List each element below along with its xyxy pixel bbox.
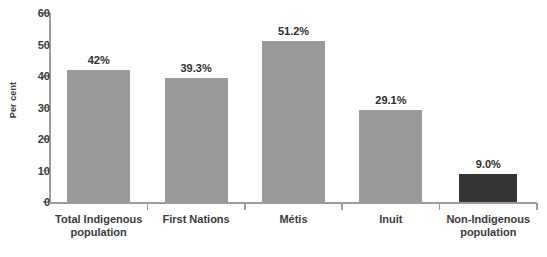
category-label-line: Total Indigenous <box>50 213 147 226</box>
bar-chart: Per cent 0102030405060 42%39.3%51.2%29.1… <box>0 0 547 257</box>
x-axis-tick-mark <box>341 203 343 210</box>
y-axis-tick-label: 60 <box>24 7 50 19</box>
y-axis-title: Per cent <box>8 70 18 130</box>
category-label-line: Métis <box>245 213 342 226</box>
bar[interactable] <box>165 78 228 202</box>
x-axis-category-label: First Nations <box>147 213 244 226</box>
y-axis-tick-label: 0 <box>24 196 50 208</box>
x-axis-tick-mark <box>244 203 246 210</box>
bar-group[interactable]: 51.2% <box>262 13 325 202</box>
x-axis-category-label: Inuit <box>342 213 439 226</box>
y-axis-tick-label: 30 <box>24 102 50 114</box>
bar-value-label: 39.3% <box>180 62 211 74</box>
x-axis-category-label: Métis <box>245 213 342 226</box>
bar-group[interactable]: 39.3% <box>165 13 228 202</box>
category-label-line: Inuit <box>342 213 439 226</box>
plot-area: 42%39.3%51.2%29.1%9.0% <box>50 13 537 202</box>
x-axis-category-label: Non-Indigenouspopulation <box>440 213 537 239</box>
bar-value-label: 51.2% <box>278 25 309 37</box>
y-axis-tick-label: 20 <box>24 133 50 145</box>
category-label-line: First Nations <box>147 213 244 226</box>
x-axis-tick-mark <box>439 203 441 210</box>
x-axis-tick-mark <box>536 203 538 210</box>
y-axis-tick-label: 10 <box>24 165 50 177</box>
y-axis-tick-label: 50 <box>24 39 50 51</box>
bar-value-label: 9.0% <box>476 158 501 170</box>
bar[interactable] <box>459 174 517 202</box>
bar[interactable] <box>67 70 130 202</box>
bar[interactable] <box>359 110 422 202</box>
bar-group[interactable]: 29.1% <box>359 13 422 202</box>
x-axis-line <box>49 202 537 204</box>
bar[interactable] <box>262 41 325 202</box>
x-axis-tick-mark <box>147 203 149 210</box>
category-label-line: population <box>50 226 147 239</box>
category-label-line: population <box>440 226 537 239</box>
y-axis-tick-label: 40 <box>24 70 50 82</box>
bar-value-label: 29.1% <box>375 94 406 106</box>
bar-group[interactable]: 9.0% <box>459 13 517 202</box>
category-label-line: Non-Indigenous <box>440 213 537 226</box>
x-axis-category-label: Total Indigenouspopulation <box>50 213 147 239</box>
bar-value-label: 42% <box>88 54 110 66</box>
bar-group[interactable]: 42% <box>67 13 130 202</box>
